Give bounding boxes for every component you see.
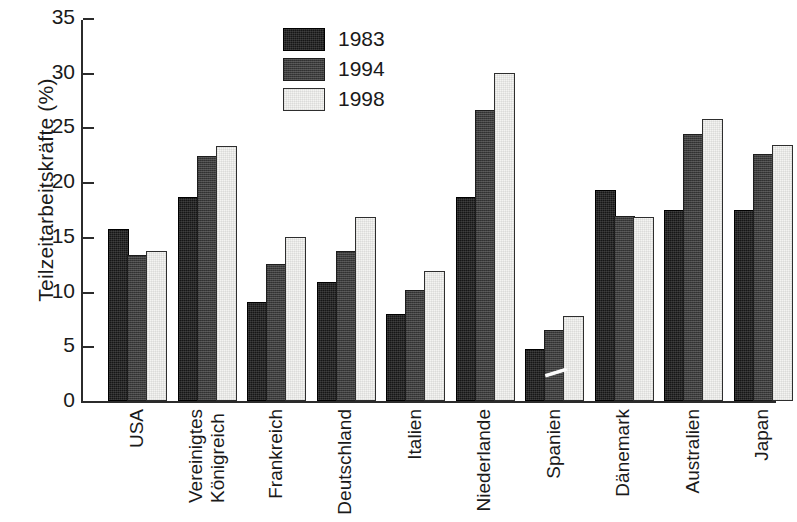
bar-1998 [633,217,654,401]
bar-1994 [753,154,774,401]
y-axis-tick-label: 10 [15,279,75,303]
legend-label: 1994 [338,57,385,81]
x-axis-label-line: Australien [682,409,704,494]
bar-group [386,18,443,401]
legend-item: 1994 [283,54,385,84]
x-axis-label: Japan [751,409,773,461]
x-axis-label-line: Deutschland [334,409,356,515]
x-axis-label-line: Italien [404,409,426,460]
bar-group [595,18,652,401]
legend-item: 1983 [283,24,385,54]
bar-1994 [614,216,635,401]
y-axis-tick: 10 [83,292,94,294]
bar-1983 [456,197,477,401]
bar-1994 [336,251,357,401]
bar-1983 [595,190,616,401]
bar-1998 [494,73,515,401]
x-axis-label-line: Königreich [207,409,229,503]
x-axis-label-line: Spanien [543,409,565,479]
x-axis-label: Niederlande [473,409,495,511]
legend: 198319941998 [283,24,385,114]
y-axis-tick: 20 [83,182,94,184]
bar-group [178,18,235,401]
x-axis-label: USA [126,409,148,448]
bar-chart-figure: Teilzeitarbeitskräfte (%) 05101520253035… [0,0,797,522]
x-axis-label: Italien [404,409,426,460]
x-axis-line [81,401,776,403]
y-axis-tick: 0 [83,401,94,403]
bar-1983 [247,302,268,401]
bar-group [456,18,513,401]
y-axis-tick-label: 35 [15,5,75,29]
bar-group [108,18,165,401]
y-axis-tick-label: 0 [15,388,75,412]
bar-1998 [216,146,237,401]
x-axis-label-line: Dänemark [612,409,634,497]
legend-item: 1998 [283,84,385,114]
bar-1983 [386,314,407,401]
bar-1998 [563,316,584,401]
legend-swatch-1983 [283,28,325,51]
bar-1983 [664,210,685,401]
bar-1994 [266,264,287,401]
x-axis-label-line: Japan [751,409,773,461]
x-axis-label-line: Frankreich [265,409,287,499]
bar-1983 [317,282,338,401]
bar-1998 [772,145,793,401]
bar-group [734,18,791,401]
bar-1983 [525,349,546,401]
bar-1994 [544,330,565,401]
bar-1994 [127,255,148,401]
x-axis-label-line: Niederlande [473,409,495,511]
bar-group [525,18,582,401]
bar-1994 [475,110,496,401]
y-axis-tick-label: 15 [15,224,75,248]
bar-1994 [197,156,218,401]
x-axis-label: Australien [682,409,704,494]
bar-1998 [702,119,723,401]
y-axis-tick-label: 30 [15,60,75,84]
bar-1994 [683,134,704,401]
bar-1998 [285,237,306,401]
bar-1983 [108,229,129,401]
legend-swatch-1998 [283,88,325,111]
y-axis-tick: 25 [83,127,94,129]
y-axis-tick-label: 5 [15,333,75,357]
y-axis-tick: 5 [83,346,94,348]
x-axis-label-line: Vereinigtes [185,409,207,503]
legend-swatch-1994 [283,58,325,81]
y-axis-tick: 15 [83,237,94,239]
y-axis-tick: 35 [83,18,94,20]
legend-label: 1983 [338,27,385,51]
bar-1998 [424,271,445,401]
bar-1994 [405,290,426,401]
x-axis-label: VereinigtesKönigreich [185,409,229,503]
bar-group [664,18,721,401]
x-axis-label: Spanien [543,409,565,479]
bar-1998 [146,251,167,401]
bar-1998 [355,217,376,401]
plot-area: 05101520253035 [81,20,776,403]
x-axis-label: Deutschland [334,409,356,515]
bar-1983 [178,197,199,401]
x-axis-label: Dänemark [612,409,634,497]
x-axis-label: Frankreich [265,409,287,499]
x-axis-label-line: USA [126,409,148,448]
legend-label: 1998 [338,87,385,111]
y-axis-tick-label: 20 [15,169,75,193]
y-axis-tick-label: 25 [15,114,75,138]
y-axis-tick: 30 [83,73,94,75]
bar-1983 [734,210,755,401]
